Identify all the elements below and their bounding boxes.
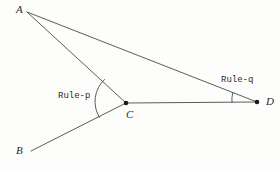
angle-arc-at-d xyxy=(232,93,233,103)
segment-a-c xyxy=(27,12,126,103)
angle-arc-at-c xyxy=(95,80,105,118)
angle-label-rule-p: Rule-p xyxy=(58,92,90,101)
angle-label-rule-q: Rule-q xyxy=(221,76,253,85)
point-label-b: B xyxy=(16,145,23,156)
segment-a-d xyxy=(27,12,257,102)
segment-c-d xyxy=(126,102,257,103)
vertex-dot-d xyxy=(255,100,260,105)
vertex-dot-c xyxy=(124,101,129,106)
point-label-a: A xyxy=(16,4,23,15)
point-label-c: C xyxy=(126,109,133,120)
geometry-diagram: A B C D Rule-p Rule-q xyxy=(0,0,280,171)
point-label-d: D xyxy=(266,96,274,107)
geometry-canvas xyxy=(0,0,280,171)
segment-c-b xyxy=(31,103,126,151)
